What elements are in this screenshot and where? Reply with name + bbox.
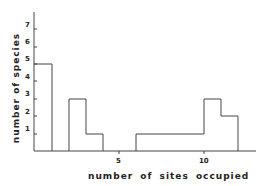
bar-group-1 bbox=[34, 64, 52, 151]
y-tick-6: 6 bbox=[25, 38, 30, 46]
y-tick-3: 3 bbox=[25, 90, 30, 98]
y-axis-label: number of species bbox=[11, 33, 21, 143]
x-tick-10: 10 bbox=[199, 157, 209, 165]
x-axis-label: number of sites occupied bbox=[88, 171, 249, 181]
bar-group-2 bbox=[69, 99, 103, 151]
y-tick-4: 4 bbox=[25, 73, 30, 81]
y-tick-2: 2 bbox=[25, 108, 30, 116]
histogram-plot bbox=[0, 0, 266, 186]
bar-group-3 bbox=[136, 99, 238, 151]
y-tick-1: 1 bbox=[25, 125, 30, 133]
y-tick-5: 5 bbox=[25, 55, 30, 63]
y-tick-7: 7 bbox=[25, 21, 30, 29]
x-tick-5: 5 bbox=[116, 157, 121, 165]
